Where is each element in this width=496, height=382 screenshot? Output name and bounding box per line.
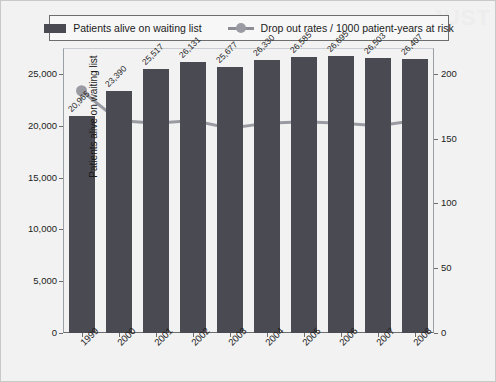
y-axis-left-tick-label: 0 [9,327,57,338]
y-axis-right-tick [434,333,438,334]
y-axis-left-tick [59,74,63,75]
bar-2003 [217,67,243,333]
bar-2008 [402,59,428,333]
y-axis-right-tick [434,203,438,204]
y-axis-left-tick-label: 20,000 [9,120,57,131]
bar-2005 [291,57,317,333]
plot-area: 20,96523,39025,51726,13125,67726,33026,5… [63,48,434,333]
legend-item-bars: Patients alive on waiting list [44,22,201,34]
y-axis-right-tick-label: 50 [441,262,452,273]
bar-swatch-icon [44,24,66,33]
y-axis-left-tick [59,178,63,179]
chart-legend: Patients alive on waiting list Drop out … [49,15,449,41]
y-axis-left-tick-label: 10,000 [9,223,57,234]
y-axis-right-tick [434,268,438,269]
bar-2006 [328,56,354,333]
bar-2000 [106,91,132,333]
bar-2002 [180,62,206,333]
y-axis-left-tick [59,333,63,334]
y-axis-left-tick [59,229,63,230]
bar-2007 [365,58,391,333]
y-axis-left-tick [59,126,63,127]
line-marker-icon [228,23,254,33]
chart-figure: JUST Patients alive on waiting list Drop… [0,0,496,382]
y-axis-right-tick-label: 150 [441,133,457,144]
y-axis-left-tick-label: 25,000 [9,68,57,79]
y-axis-right-tick-label: 100 [441,197,457,208]
y-axis-right-tick [434,74,438,75]
y-axis-left-tick-label: 5,000 [9,275,57,286]
y-axis-left-title: Patients alive on waiting list [88,17,99,217]
bar-2004 [254,60,280,333]
y-axis-left-tick [59,281,63,282]
y-axis-left-tick-label: 15,000 [9,172,57,183]
legend-label-line: Drop out rates / 1000 patient-years at r… [261,22,454,34]
y-axis-right-tick-label: 0 [441,327,446,338]
bar-2001 [143,69,169,333]
y-axis-right-tick [434,139,438,140]
y-axis-right-tick-label: 200 [441,68,457,79]
